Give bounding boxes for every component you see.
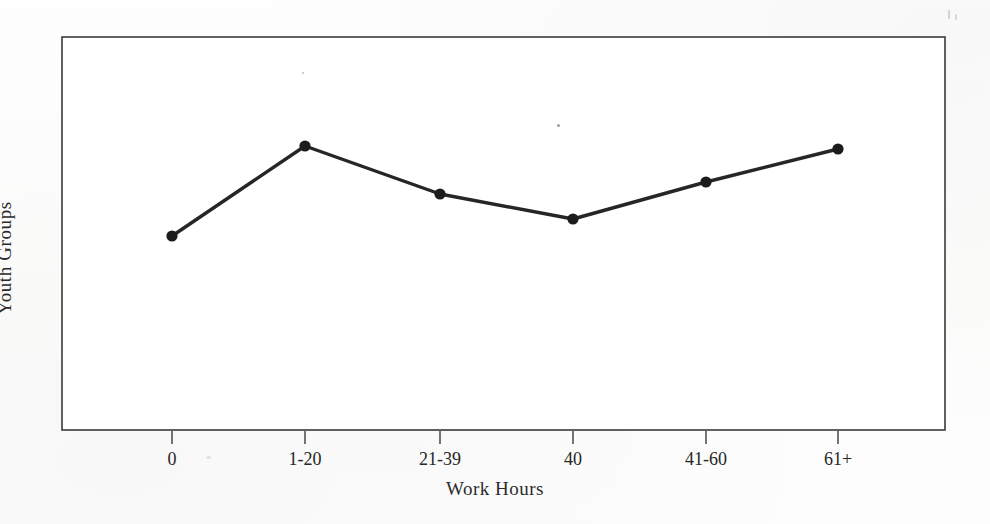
x-axis-tick-marks (172, 431, 838, 444)
x-tick-label: 1-20 (289, 449, 322, 470)
x-axis-title: Work Hours (0, 478, 990, 500)
x-tick-label: 61+ (824, 449, 852, 470)
data-point-marker (299, 140, 310, 151)
x-tick-label: 40 (564, 449, 582, 470)
data-point-marker (434, 188, 445, 199)
data-point-marker (832, 143, 843, 154)
chart-screenshot: Youth Groups Work Hours 01-2021-394041-6… (0, 0, 990, 524)
x-tick-label: 21-39 (419, 449, 461, 470)
x-tick-label: 0 (168, 449, 177, 470)
data-point-marker (166, 230, 177, 241)
plot-frame (62, 37, 945, 430)
x-tick-label: 41-60 (685, 449, 727, 470)
data-point-marker (567, 213, 578, 224)
data-point-marker (700, 176, 711, 187)
line-chart: Youth Groups Work Hours 01-2021-394041-6… (0, 0, 990, 524)
y-axis-title: Youth Groups (0, 158, 16, 358)
plot-canvas (0, 0, 990, 524)
